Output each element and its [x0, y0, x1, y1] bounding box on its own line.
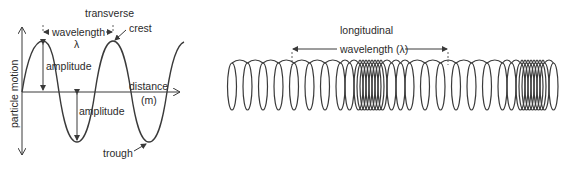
- trough-pointer: [134, 144, 146, 151]
- particle-motion-label: particle motion: [8, 60, 20, 128]
- amplitude-label-lower: amplitude: [79, 105, 125, 117]
- waves-diagram: transverse wavelength λ crest amplitude …: [0, 0, 571, 170]
- amplitude-label-upper: amplitude: [46, 60, 92, 72]
- spring-coils: [228, 60, 559, 110]
- longitudinal-title: longitudinal: [340, 24, 393, 36]
- crest-label: crest: [129, 22, 152, 34]
- transverse-wave-panel: transverse wavelength λ crest amplitude …: [8, 7, 184, 159]
- wavelength-label: wavelength: [51, 26, 105, 38]
- crest-pointer: [115, 30, 126, 40]
- distance-label: distance: [129, 80, 168, 92]
- longitudinal-wavelength-label: wavelength (λ): [339, 43, 408, 55]
- longitudinal-wave-panel: longitudinal wavelength (λ): [228, 24, 559, 110]
- transverse-title: transverse: [85, 7, 134, 19]
- lambda-symbol: λ: [74, 38, 80, 50]
- trough-label: trough: [103, 147, 133, 159]
- distance-unit: (m): [141, 94, 157, 106]
